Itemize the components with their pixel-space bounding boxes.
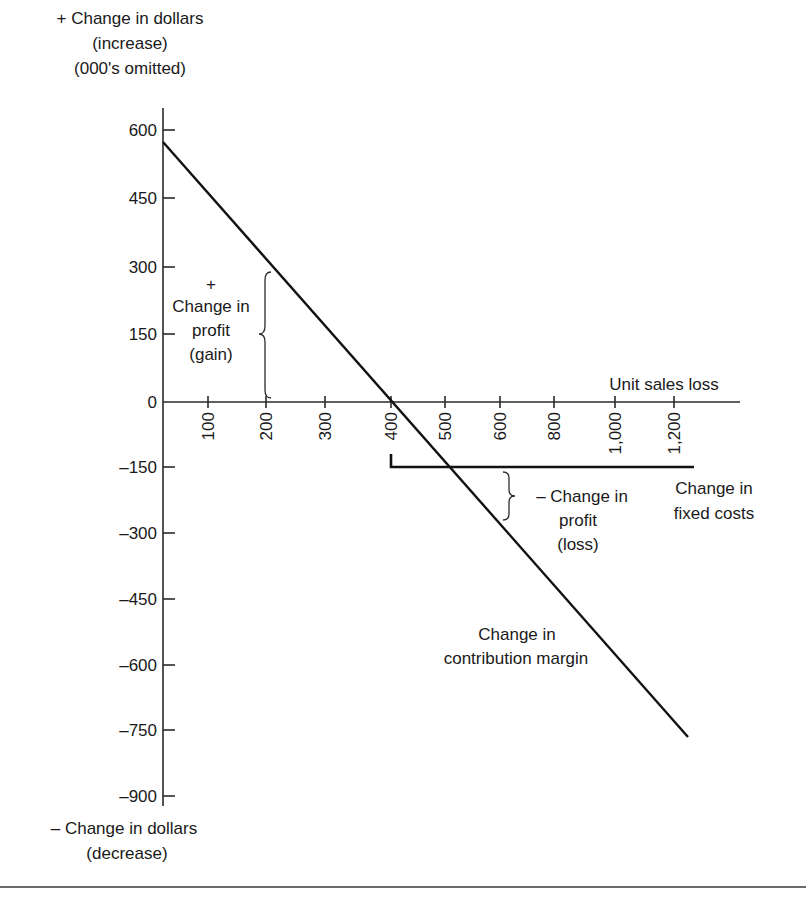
y-tick-label: 300 (129, 258, 157, 277)
x-tick-label: 1,000 (606, 412, 625, 455)
x-tick-label: 200 (257, 412, 276, 440)
y-tick-label: 150 (129, 325, 157, 344)
x-tick-label: 600 (491, 412, 510, 440)
y-axis-label-bottom-line2: (decrease) (86, 844, 167, 863)
y-tick-label: –600 (119, 656, 157, 675)
gain-annotation-line2: profit (192, 321, 230, 340)
y-axis-label-top-line1: + Change in dollars (57, 9, 204, 28)
y-axis-label-top-line2: (increase) (92, 34, 168, 53)
y-axis-label-bottom-line1: – Change in dollars (51, 819, 197, 838)
y-tick-label: 600 (129, 121, 157, 140)
x-tick-label: 800 (545, 412, 564, 440)
y-axis-ticks (163, 130, 175, 796)
y-tick-label: –150 (119, 458, 157, 477)
y-tick-label: –450 (119, 590, 157, 609)
x-tick-label: 300 (316, 412, 335, 440)
gain-brace-icon (259, 272, 271, 398)
chart-canvas: + Change in dollars (increase) (000's om… (0, 0, 806, 909)
y-tick-label: –900 (119, 787, 157, 806)
contribution-margin-label-line1: Change in (478, 625, 556, 644)
y-tick-label: 450 (129, 189, 157, 208)
gain-annotation-line1: Change in (172, 297, 250, 316)
fixed-costs-label-line2: fixed costs (674, 504, 754, 523)
x-axis-label: Unit sales loss (609, 375, 719, 394)
loss-annotation-line3: (loss) (557, 535, 599, 554)
fixed-costs-label-line1: Change in (675, 479, 753, 498)
contribution-margin-label-line2: contribution margin (444, 649, 589, 668)
x-axis-tick-labels: 100 200 300 400 500 600 800 1,000 1,200 (199, 412, 684, 455)
y-tick-label: 0 (148, 393, 157, 412)
x-tick-label: 1,200 (665, 412, 684, 455)
y-axis-label-top-line3: (000's omitted) (74, 59, 186, 78)
loss-annotation-line1: – Change in (536, 487, 628, 506)
x-tick-label: 400 (382, 412, 401, 440)
y-tick-label: –750 (119, 721, 157, 740)
x-tick-label: 100 (199, 412, 218, 440)
loss-annotation-line2: profit (559, 511, 597, 530)
y-tick-label: –300 (119, 524, 157, 543)
y-axis-tick-labels: 600 450 300 150 0 –150 –300 –450 –600 –7… (119, 121, 157, 806)
x-tick-label: 500 (436, 412, 455, 440)
gain-annotation-line3: (gain) (189, 345, 232, 364)
loss-brace-icon (503, 472, 515, 520)
fixed-costs-line (391, 454, 694, 467)
gain-annotation-plus: + (206, 275, 216, 294)
